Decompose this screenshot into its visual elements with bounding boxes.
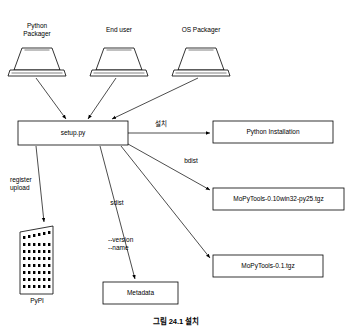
node-label-metadata: Metadata xyxy=(103,289,178,297)
diagram-root: Python Packager End user OS Packager set… xyxy=(0,0,352,331)
figure-caption: 그림 24.1 설치 xyxy=(0,315,352,326)
laptop-os-packager-icon xyxy=(172,48,230,76)
node-label-pypi: PyPI xyxy=(16,297,58,305)
node-label-mopytools-tgz: MoPyTools-0.1.tgz xyxy=(213,262,323,270)
node-label-python-installation: Python Installation xyxy=(213,128,333,136)
laptop-end-user-icon xyxy=(90,48,148,76)
diagram-canvas xyxy=(0,0,352,331)
pypi-building-icon xyxy=(20,226,53,294)
laptop-python-packager-icon xyxy=(8,48,66,76)
node-label-mopytools-win32-tgz: MoPyTools-0.10win32-py25.tgz xyxy=(213,195,344,203)
node-label-setup-py: setup.py xyxy=(18,129,128,137)
